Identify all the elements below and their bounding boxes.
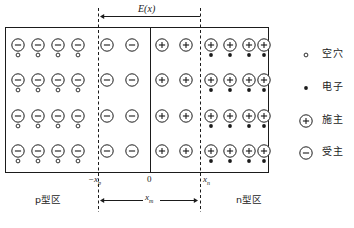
acceptor-icon: [126, 39, 138, 51]
donor-icon: [156, 74, 168, 86]
hole-icon: [76, 159, 80, 163]
electron-icon: [209, 159, 213, 163]
boundary-label-minus-xp: −xp: [88, 175, 101, 186]
hole-icon: [16, 88, 20, 92]
acceptor-icon: [101, 74, 113, 86]
donor-icon: [205, 110, 217, 122]
acceptor-icon: [12, 110, 24, 122]
hole-icon: [56, 88, 60, 92]
donor-icon: [156, 145, 168, 157]
boundary-label-zero: 0: [147, 175, 152, 184]
donor-icon: [224, 74, 236, 86]
donor-icon: [224, 39, 236, 51]
donor-icon: [224, 145, 236, 157]
legend-donor-icon: [300, 115, 312, 127]
acceptor-icon: [12, 74, 24, 86]
donor-icon: [180, 145, 192, 157]
depletion-width-label-sub: m: [149, 198, 153, 204]
electron-icon: [262, 53, 266, 57]
boundary-label-xn-sub: n: [207, 180, 210, 186]
acceptor-icon: [32, 110, 44, 122]
donor-icon: [243, 74, 255, 86]
donor-icon: [205, 74, 217, 86]
donor-icon: [180, 39, 192, 51]
electron-icon: [209, 88, 213, 92]
boundary-label-minus-xp-main: −x: [88, 174, 98, 184]
hole-icon: [56, 124, 60, 128]
acceptor-icon: [32, 74, 44, 86]
electron-icon: [228, 88, 232, 92]
acceptor-icon: [32, 145, 44, 157]
electron-icon: [247, 88, 251, 92]
hole-icon: [56, 53, 60, 57]
electron-icon: [228, 124, 232, 128]
acceptor-icon: [12, 145, 24, 157]
hole-icon: [16, 159, 20, 163]
donor-icon: [258, 74, 270, 86]
acceptor-icon: [52, 74, 64, 86]
boundary-label-xn: xn: [203, 175, 210, 186]
acceptor-icon: [72, 145, 84, 157]
electron-icon: [262, 124, 266, 128]
hole-icon: [16, 124, 20, 128]
acceptor-icon: [12, 39, 24, 51]
hole-icon: [304, 53, 308, 57]
boundary-label-zero-main: 0: [147, 174, 152, 184]
acceptor-icon: [52, 110, 64, 122]
acceptor-icon: [101, 39, 113, 51]
donor-icon: [156, 39, 168, 51]
donor-icon: [258, 145, 270, 157]
donor-icon: [180, 110, 192, 122]
hole-icon: [36, 124, 40, 128]
donor-icon: [243, 110, 255, 122]
legend-label-donor: 施主: [322, 115, 343, 125]
legend-symbols-layer: [300, 53, 312, 159]
hole-icon: [36, 53, 40, 57]
depletion-arrow-head-right: [194, 198, 198, 203]
region-label-p-type: p型区: [35, 195, 61, 205]
acceptor-icon: [72, 39, 84, 51]
electron-icon: [228, 53, 232, 57]
acceptor-icon: [72, 74, 84, 86]
legend-label-acceptor: 受主: [322, 147, 343, 157]
region-label-n-type: n型区: [236, 195, 262, 205]
electron-icon: [228, 159, 232, 163]
electron-icon: [247, 53, 251, 57]
acceptor-icon: [32, 39, 44, 51]
boundary-label-minus-xp-sub: p: [98, 180, 101, 186]
hole-icon: [76, 53, 80, 57]
electric-field-label: E(x): [138, 4, 155, 14]
legend-label-electron: 电子: [322, 82, 343, 92]
hole-icon: [36, 88, 40, 92]
acceptor-icon: [52, 145, 64, 157]
donor-icon: [156, 110, 168, 122]
electron-icon: [209, 124, 213, 128]
acceptor-icon: [52, 39, 64, 51]
donor-icon: [205, 39, 217, 51]
electron-icon: [262, 159, 266, 163]
figure-canvas: E(x) −xp 0 xn xm p型区 n型区 空穴 电子 施主 受主: [0, 0, 354, 228]
hole-icon: [36, 159, 40, 163]
depletion-width-label: xm: [145, 193, 153, 204]
hole-icon: [16, 53, 20, 57]
electron-icon: [209, 53, 213, 57]
acceptor-icon: [101, 110, 113, 122]
donor-icon: [243, 39, 255, 51]
donor-icon: [224, 110, 236, 122]
hole-icon: [76, 88, 80, 92]
electron-icon: [247, 159, 251, 163]
acceptor-icon: [101, 145, 113, 157]
legend-label-hole: 空穴: [322, 49, 343, 59]
donor-icon: [205, 145, 217, 157]
depletion-arrow-head-left: [100, 198, 104, 203]
legend-acceptor-icon: [300, 147, 312, 159]
acceptor-icon: [126, 74, 138, 86]
donor-icon: [243, 145, 255, 157]
acceptor-icon: [72, 110, 84, 122]
electron-icon: [262, 88, 266, 92]
acceptor-icon: [126, 110, 138, 122]
donor-icon: [258, 39, 270, 51]
hole-icon: [56, 159, 60, 163]
donor-icon: [258, 110, 270, 122]
hole-icon: [76, 124, 80, 128]
